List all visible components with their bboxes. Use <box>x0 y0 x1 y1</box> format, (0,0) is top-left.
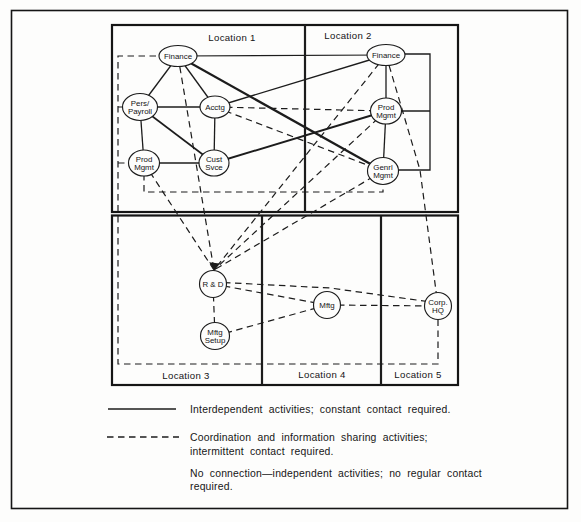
edge-cust_svce-prod_mgmt2 <box>214 111 386 163</box>
edge-dashed <box>214 171 383 270</box>
edge-mftg_setup-mftg <box>215 305 327 336</box>
node-label-prod_mgmt1: ProdMgmt <box>134 155 155 173</box>
edge-acctg-prod_mgmt2 <box>215 107 386 111</box>
label-location-5: Location 5 <box>394 369 441 380</box>
node-label-prod_mgmt2: ProdMgmt <box>376 103 397 121</box>
edge-rnd-mftg <box>213 284 327 305</box>
label-location-3: Location 3 <box>162 370 209 381</box>
label-location-4: Location 4 <box>298 369 346 380</box>
node-label-acctg: Acctg <box>205 103 225 112</box>
edge-dashed <box>144 163 383 192</box>
node-label-mftg: Mftg <box>319 301 334 310</box>
org-communication-diagram: FinancePers/PayrollAcctgProdMgmtCustSvce… <box>0 0 581 522</box>
node-label-genrl_mgmt2: GenrlMgmt <box>373 163 394 181</box>
node-label-finance2: Finance <box>372 51 401 60</box>
node-label-finance1: Finance <box>164 52 193 61</box>
label-location-2: Location 2 <box>324 30 371 41</box>
node-label-cust_svce: CustSvce <box>205 155 223 173</box>
legend-item-2-line-2: intermittent contact required. <box>190 446 334 457</box>
scanned-figure-page: FinancePers/PayrollAcctgProdMgmtCustSvce… <box>0 0 581 522</box>
legend-item-3-line-1: No connection—independent activities; no… <box>190 468 482 479</box>
edge-acctg-genrl_mgmt2 <box>215 107 383 171</box>
label-location-1: Location 1 <box>208 32 255 43</box>
edge-mftg-corp_hq <box>327 305 438 306</box>
edge-acctg-finance2 <box>215 55 386 107</box>
node-label-rnd: R & D <box>202 280 223 289</box>
node-label-pers_payroll: Pers/Payroll <box>128 99 152 117</box>
arrowhead-into-rnd <box>209 262 219 271</box>
edge-finance1-finance2 <box>178 55 386 56</box>
legend-item-1-line-1: Interdependent activities; constant cont… <box>190 404 451 415</box>
legend-item-3-line-2: required. <box>190 481 233 492</box>
legend-item-2-line-1: Coordination and information sharing act… <box>190 432 428 443</box>
edge-dashed <box>214 111 386 270</box>
location-box-bottom-half <box>112 216 458 386</box>
